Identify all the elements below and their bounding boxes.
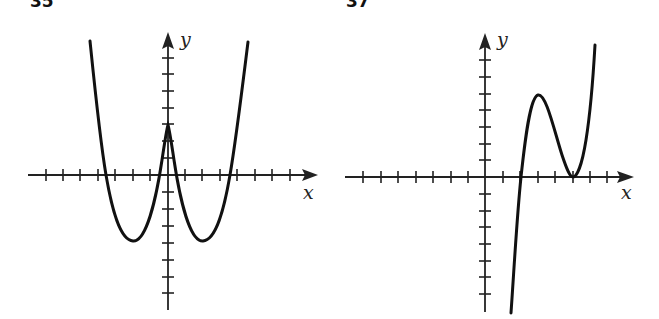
y-axis — [479, 33, 491, 312]
graph-panel-35: 35 — [0, 0, 330, 319]
y-axis-label: y — [496, 28, 508, 50]
y-axis — [162, 32, 174, 310]
y-axis-label: y — [179, 28, 191, 50]
x-axis — [28, 169, 318, 181]
x-axis — [345, 171, 634, 183]
graph-37-plot: y x — [330, 0, 659, 319]
cubic-curve — [511, 45, 595, 313]
graph-panel-37: 37 — [330, 0, 659, 319]
x-axis-label: x — [621, 181, 632, 203]
graph-35-plot: y x — [0, 0, 330, 319]
x-axis-label: x — [303, 181, 314, 203]
